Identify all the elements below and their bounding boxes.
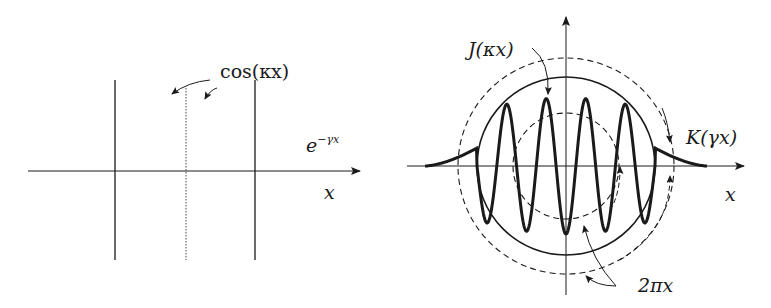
circumference-label: 2πx <box>638 276 673 295</box>
exp-decay-label: e−γx <box>306 134 339 155</box>
j-label-arrow <box>532 48 548 94</box>
circumference-arrow-1 <box>584 226 616 286</box>
x-axis-label-right: x <box>725 185 736 204</box>
x-axis-label-left: x <box>324 183 335 202</box>
left-panel <box>28 80 360 260</box>
exp-base: e <box>306 134 317 156</box>
exp-superscript: −γx <box>317 133 339 146</box>
diagram-canvas <box>0 0 771 308</box>
cos-label-arrow-1 <box>172 80 210 94</box>
bessel-k-label: K(γx) <box>686 128 737 147</box>
cos-kx-label: cos(κx) <box>220 62 289 81</box>
outer-circle-arrow-up <box>620 176 670 260</box>
cos-label-arrow-2 <box>205 88 217 99</box>
right-panel <box>407 17 744 295</box>
bessel-j-label: J(κx) <box>468 40 514 59</box>
